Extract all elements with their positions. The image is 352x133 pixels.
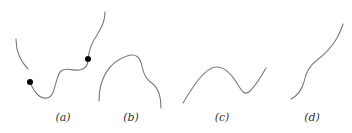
panel-d-rising — [291, 24, 343, 99]
panel-c-curve — [183, 67, 266, 103]
panel-a-label: (a) — [55, 111, 70, 124]
panel-a-point-left — [27, 79, 33, 85]
panel-b-arch — [99, 55, 161, 108]
panel-a-main-curve — [30, 12, 105, 98]
panel-b-curve — [99, 55, 161, 108]
panel-c-wave — [183, 67, 266, 103]
panel-a-left-segment — [16, 39, 28, 69]
panel-b-label: (b) — [123, 111, 139, 124]
panel-d-curve — [291, 24, 343, 99]
panel-c-label: (c) — [215, 111, 230, 124]
panel-a-point-right — [85, 56, 91, 62]
panel-a-curves — [16, 12, 105, 98]
curves-figure — [0, 0, 352, 133]
panel-d-label: (d) — [304, 111, 320, 124]
